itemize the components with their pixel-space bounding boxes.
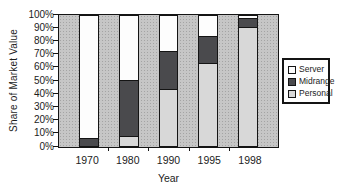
x-category-label: 1990 — [157, 154, 180, 166]
x-label-gap — [58, 154, 75, 166]
x-label-cell: 1970 — [75, 154, 98, 166]
legend: ServerMidrangePersonal — [282, 58, 330, 104]
x-tick-mark — [189, 147, 190, 151]
y-tick-label: 80% — [0, 35, 54, 46]
y-tick-label: 0% — [0, 141, 54, 152]
x-tick-mark — [229, 147, 230, 151]
plot-area — [58, 14, 279, 148]
segment-personal-1995 — [198, 63, 218, 147]
x-label-gap — [180, 154, 197, 166]
legend-swatch-midrange — [288, 78, 296, 86]
x-category-label: 1970 — [75, 154, 98, 166]
legend-label: Midrange — [299, 77, 334, 86]
legend-item-midrange: Midrange — [288, 77, 324, 86]
legend-label: Personal — [299, 89, 333, 98]
legend-label: Server — [299, 65, 324, 74]
x-axis-title: Year — [58, 172, 279, 184]
x-label-gap — [262, 154, 279, 166]
legend-item-server: Server — [288, 65, 324, 74]
y-tick-label: 50% — [0, 75, 54, 86]
gap-column — [258, 15, 278, 147]
legend-swatch-personal — [288, 90, 296, 98]
gap-column — [99, 15, 119, 147]
y-tick-label: 70% — [0, 48, 54, 59]
gap-column — [178, 15, 198, 147]
y-tick-label: 100% — [0, 9, 54, 20]
bar-1995 — [198, 15, 218, 147]
legend-item-personal: Personal — [288, 89, 324, 98]
x-category-label: 1998 — [238, 154, 261, 166]
segment-midrange-1998 — [238, 18, 258, 27]
x-tick-mark — [148, 147, 149, 151]
x-label-cell: 1990 — [157, 154, 180, 166]
gap-column — [139, 15, 159, 147]
segment-midrange-1970 — [79, 138, 99, 147]
x-category-label: 1995 — [198, 154, 221, 166]
bar-1998 — [238, 15, 258, 147]
segment-personal-1998 — [238, 27, 258, 147]
segment-midrange-1990 — [159, 51, 179, 89]
x-label-cell: 1998 — [238, 154, 261, 166]
x-label-gap — [221, 154, 238, 166]
segment-server-1995 — [198, 15, 218, 36]
bar-1970 — [79, 15, 99, 147]
y-tick-label: 40% — [0, 88, 54, 99]
gap-column — [59, 15, 79, 147]
y-tick-label: 30% — [0, 101, 54, 112]
x-label-cell: 1980 — [116, 154, 139, 166]
y-tick-label: 10% — [0, 127, 54, 138]
x-label-gap — [139, 154, 156, 166]
legend-swatch-server — [288, 66, 296, 74]
segment-server-1980 — [119, 15, 139, 80]
x-category-label: 1980 — [116, 154, 139, 166]
x-label-cell: 1995 — [198, 154, 221, 166]
segment-personal-1990 — [159, 89, 179, 147]
market-share-chart: Share of Market Value 0%10%20%30%40%50%6… — [0, 0, 349, 194]
segment-personal-1980 — [119, 136, 139, 147]
bar-1980 — [119, 15, 139, 147]
x-axis-labels: 19701980199019951998 — [58, 154, 279, 166]
x-label-gap — [99, 154, 116, 166]
y-tick-label: 60% — [0, 61, 54, 72]
segment-server-1990 — [159, 15, 179, 51]
bar-1990 — [159, 15, 179, 147]
segment-server-1970 — [79, 15, 99, 138]
y-tick-label: 20% — [0, 114, 54, 125]
segment-midrange-1995 — [198, 36, 218, 62]
x-tick-mark — [108, 147, 109, 151]
gap-column — [218, 15, 238, 147]
segment-midrange-1980 — [119, 80, 139, 137]
y-tick-label: 90% — [0, 22, 54, 33]
